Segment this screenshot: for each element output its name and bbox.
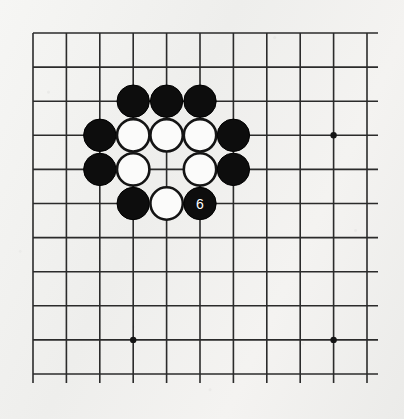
- star-point-upper-right: [330, 132, 336, 138]
- white-stone-e4: [150, 119, 182, 151]
- black-stone-d3: [117, 85, 149, 117]
- white-stone-f5: [184, 153, 216, 185]
- black-stone-g5: [217, 153, 249, 185]
- white-stone-disc: [184, 153, 216, 185]
- white-stone-d5: [117, 153, 149, 185]
- black-stone-disc: [117, 187, 149, 219]
- black-stone-g4: [217, 119, 249, 151]
- black-stone-disc: [217, 153, 249, 185]
- stone-move-number: 6: [196, 196, 204, 212]
- black-stone-e3: [150, 85, 182, 117]
- black-stone-d6: [117, 187, 149, 219]
- white-stone-disc: [184, 119, 216, 151]
- black-stone-c5: [84, 153, 116, 185]
- white-stone-d4: [117, 119, 149, 151]
- white-stone-disc: [117, 119, 149, 151]
- go-board-figure: 6: [0, 0, 404, 419]
- white-stone-e6: [150, 187, 182, 219]
- white-stone-f4: [184, 119, 216, 151]
- black-stone-disc: [217, 119, 249, 151]
- star-point-lower-right: [330, 337, 336, 343]
- black-stone-disc: [150, 85, 182, 117]
- white-stone-disc: [150, 187, 182, 219]
- white-stone-disc: [150, 119, 182, 151]
- black-stone-disc: [184, 85, 216, 117]
- black-stone-f3: [184, 85, 216, 117]
- black-stone-c4: [84, 119, 116, 151]
- white-stone-disc: [117, 153, 149, 185]
- black-stone-move-6: 6: [184, 187, 216, 219]
- go-board-canvas: 6: [0, 0, 404, 419]
- black-stone-disc: [84, 119, 116, 151]
- stones: 6: [84, 85, 250, 220]
- black-stone-disc: [84, 153, 116, 185]
- star-point-lower-left: [130, 337, 136, 343]
- black-stone-disc: [117, 85, 149, 117]
